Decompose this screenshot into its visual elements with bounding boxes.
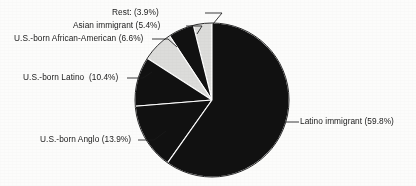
pie-chart-figure — [0, 0, 416, 186]
slice-label-asian-immigrant: Asian immigrant (5.4%) — [73, 20, 160, 30]
slice-label-us-born-african-american: U.S.-born African-American (6.6%) — [14, 33, 143, 43]
slice-label-us-born-anglo: U.S.-born Anglo (13.9%) — [40, 134, 131, 144]
leader-line-rest — [205, 13, 222, 24]
slice-label-latino-immigrant: Latino immigrant (59.8%) — [300, 116, 394, 126]
slice-label-rest: Rest: (3.9%) — [112, 7, 159, 17]
chart-canvas: Rest: (3.9%)Asian immigrant (5.4%)U.S.-b… — [0, 0, 416, 186]
slice-label-us-born-latino: U.S.-born Latino (10.4%) — [23, 72, 118, 82]
pie-slices-group — [135, 23, 289, 177]
